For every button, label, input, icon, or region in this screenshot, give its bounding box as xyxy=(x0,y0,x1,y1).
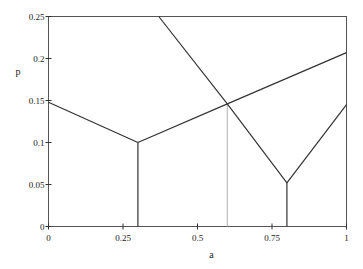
y-tick-label: 0 xyxy=(40,222,45,232)
y-tick-label: 0.1 xyxy=(33,138,44,148)
series-line xyxy=(138,53,347,143)
x-axis-label: a xyxy=(209,249,214,260)
y-axis-label: p xyxy=(16,66,21,77)
y-tick-label: 0.25 xyxy=(29,12,45,22)
y-tick-label: 0.2 xyxy=(33,54,44,64)
x-tick-label: 0 xyxy=(46,233,51,243)
chart: 00.050.10.150.20.2500.250.50.751ap xyxy=(0,0,363,269)
series-line xyxy=(287,105,347,183)
x-tick-label: 0.25 xyxy=(115,233,131,243)
x-tick-label: 0.5 xyxy=(192,233,204,243)
y-tick-label: 0.05 xyxy=(29,180,45,190)
series-line xyxy=(49,102,138,142)
series-line xyxy=(159,17,287,183)
plot-frame xyxy=(49,17,347,227)
y-tick-label: 0.15 xyxy=(29,96,45,106)
x-tick-label: 1 xyxy=(344,233,349,243)
x-tick-label: 0.75 xyxy=(264,233,280,243)
